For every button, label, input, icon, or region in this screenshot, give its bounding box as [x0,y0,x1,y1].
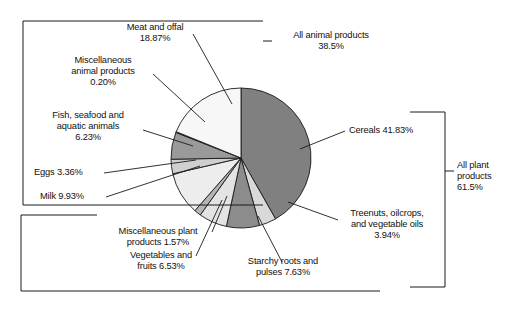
label-vegetables-and-fruits: Vegetables and fruits 6.53% [113,250,209,272]
label-cereals: Cereals 41.83% [349,125,449,136]
leader-misc-animal [153,74,205,122]
label-all-animal-products: All animal products 38.5% [272,30,390,52]
label-milk: Milk 9.93% [40,191,130,202]
bracket-plant-products [410,112,445,287]
label-fish-seafood: Fish, seafood and aquatic animals 6.23% [32,110,144,144]
label-eggs: Eggs 3.36% [34,167,124,178]
label-treenuts-oilcrops: Treenuts, oilcrops, and vegetable oils 3… [333,208,441,242]
chart-canvas: Meat and offal 18.87% Miscellaneous anim… [0,0,518,312]
label-all-plant-products: All plant products 61.5% [457,160,515,194]
label-miscellaneous-plant-products: Miscellaneous plant products 1.57% [98,226,218,248]
leader-meat [193,34,232,104]
label-starchy-roots-and-pulses: Starchy roots and pulses 7.63% [231,256,335,278]
label-meat-and-offal: Meat and offal 18.87% [95,22,215,44]
label-miscellaneous-animal-products: Miscellaneous animal products 0.20% [53,55,153,89]
leader-treenuts [288,202,338,220]
pie-slices [171,88,311,228]
